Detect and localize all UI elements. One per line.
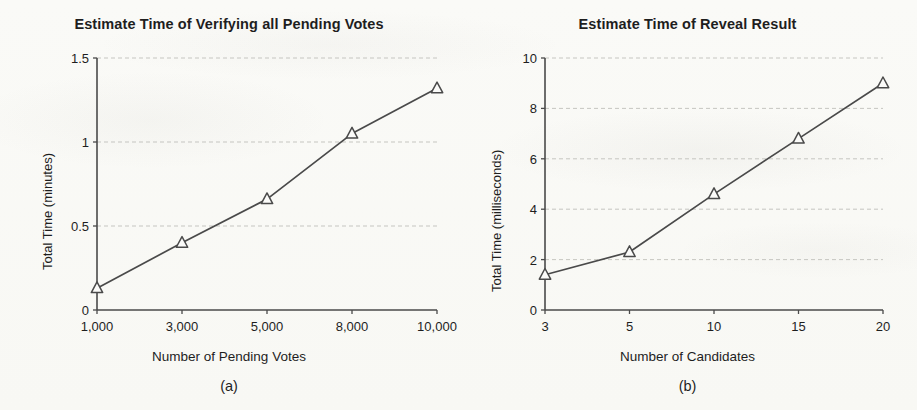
- y-axis-tick-label: 10: [495, 51, 537, 66]
- x-axis-tick-label: 10,000: [397, 319, 477, 334]
- x-axis-tick-label: 5: [590, 319, 670, 334]
- x-axis-tick-label: 5,000: [227, 319, 307, 334]
- y-axis-tick-label: 1: [47, 135, 89, 150]
- chart-a-y-axis-title: Total Time (minutes): [40, 153, 55, 270]
- figure-two-line-charts: Estimate Time of Verifying all Pending V…: [0, 0, 917, 410]
- x-axis-tick-label: 20: [843, 319, 917, 334]
- data-point-marker: [91, 282, 102, 293]
- x-axis-tick-label: 3,000: [142, 319, 222, 334]
- y-axis-tick-label: 0.5: [47, 219, 89, 234]
- chart-a-caption: (a): [0, 378, 458, 394]
- x-axis-tick-label: 15: [759, 319, 839, 334]
- data-series-line: [97, 88, 437, 288]
- y-axis-tick-label: 4: [495, 202, 537, 217]
- chart-b-x-axis-title: Number of Candidates: [458, 349, 917, 364]
- chart-a-plot-area: [97, 58, 437, 310]
- y-axis-tick-label: 0: [495, 303, 537, 318]
- chart-a-x-axis-title: Number of Pending Votes: [0, 349, 458, 364]
- chart-b-caption: (b): [458, 378, 917, 394]
- data-point-marker: [261, 193, 272, 204]
- chart-a-title: Estimate Time of Verifying all Pending V…: [0, 16, 458, 32]
- chart-a-svg: [97, 58, 437, 310]
- data-point-marker: [176, 237, 187, 248]
- x-axis-tick-label: 8,000: [312, 319, 392, 334]
- y-axis-tick-label: 2: [495, 252, 537, 267]
- y-axis-tick-label: 0: [47, 303, 89, 318]
- y-axis-tick-label: 6: [495, 151, 537, 166]
- x-axis-tick-label: 1,000: [57, 319, 137, 334]
- data-point-marker: [431, 82, 442, 93]
- x-axis-tick-label: 10: [674, 319, 754, 334]
- x-axis-tick-label: 3: [505, 319, 585, 334]
- y-axis-tick-label: 1.5: [47, 51, 89, 66]
- data-point-marker: [346, 127, 357, 138]
- y-axis-tick-label: 8: [495, 101, 537, 116]
